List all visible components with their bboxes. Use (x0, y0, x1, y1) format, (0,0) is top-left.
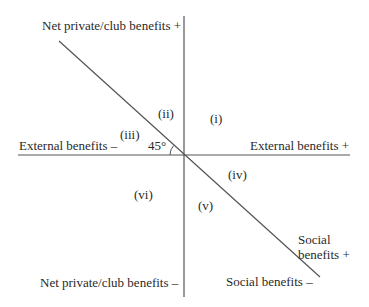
horizontal-axis-left-label: External benefits – (19, 139, 117, 153)
angle-arc (170, 146, 174, 155)
social-benefits-line (59, 41, 320, 277)
benefits-diagram: Net private/club benefits + Net private/… (0, 0, 369, 307)
social-benefits-plus-label-line1: Social (298, 233, 331, 247)
social-benefits-minus-label: Social benefits – (226, 275, 313, 289)
angle-label: 45° (148, 139, 166, 153)
region-v: (v) (198, 199, 213, 213)
region-i: (i) (210, 112, 222, 126)
region-iv: (iv) (228, 168, 247, 182)
region-ii: (ii) (158, 107, 174, 121)
vertical-axis-top-label: Net private/club benefits + (42, 19, 181, 33)
vertical-axis-bottom-label: Net private/club benefits – (40, 276, 178, 290)
horizontal-axis-right-label: External benefits + (250, 139, 349, 153)
region-iii: (iii) (120, 128, 140, 142)
region-vi: (vi) (134, 188, 153, 202)
social-benefits-plus-label-line2: benefits + (298, 248, 350, 262)
